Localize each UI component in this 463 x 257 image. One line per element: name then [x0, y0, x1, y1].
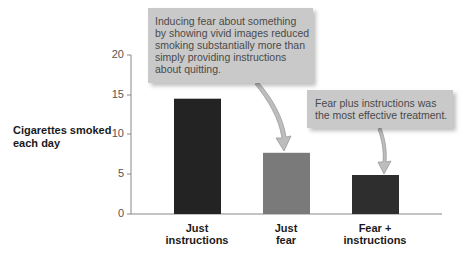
annotation-callout-fear-plus-instructions: Fear plus instructions was the most effe…: [307, 90, 453, 128]
annotation-line: smoking substantially more than: [155, 39, 305, 51]
x-category-line: instructions: [330, 234, 420, 246]
annotation-line: Inducing fear about something: [155, 15, 305, 27]
annotation-line: by showing vivid images reduced: [155, 27, 305, 39]
callout-arrow-2-icon: [378, 128, 391, 174]
x-category-line: instructions: [152, 234, 242, 246]
y-axis-title-line-2: each day: [13, 137, 113, 150]
bar-fear-plus-instructions: [352, 175, 399, 214]
x-category-just-fear: Just fear: [241, 222, 331, 246]
bar-just-instructions: [174, 99, 221, 214]
y-ticks: [127, 55, 131, 214]
annotation-line: simply providing instructions: [155, 51, 305, 63]
annotation-line: the most effective treatment.: [315, 109, 447, 121]
annotation-callout-fear: Inducing fear about something by showing…: [148, 8, 313, 83]
y-axis-title-line-1: Cigarettes smoked: [13, 124, 113, 137]
y-tick-label-15: 15: [104, 89, 124, 100]
y-tick-label-5: 5: [104, 168, 124, 179]
y-axis-title: Cigarettes smoked each day: [13, 124, 113, 150]
x-category-just-instructions: Just instructions: [152, 222, 242, 246]
bar-chart: Cigarettes smoked each day 20 15 10 5 0 …: [0, 0, 463, 257]
x-category-line: Fear +: [330, 222, 420, 234]
annotation-line: Fear plus instructions was: [315, 97, 447, 109]
x-category-line: fear: [241, 234, 331, 246]
x-category-line: Just: [241, 222, 331, 234]
y-tick-label-0: 0: [104, 208, 124, 219]
annotation-line: about quitting.: [155, 63, 305, 75]
x-category-fear-plus-instructions: Fear + instructions: [330, 222, 420, 246]
y-tick-label-10: 10: [104, 128, 124, 139]
x-category-line: Just: [152, 222, 242, 234]
callout-arrow-1-icon: [255, 83, 291, 151]
y-tick-label-20: 20: [104, 49, 124, 60]
bar-just-fear: [263, 153, 310, 214]
